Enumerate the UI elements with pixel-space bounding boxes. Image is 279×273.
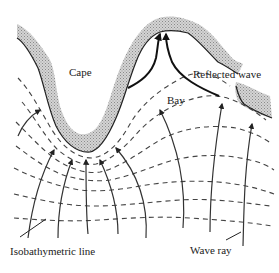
isobath-3 <box>16 122 272 173</box>
wave-ray-1 <box>18 110 40 136</box>
wave-ray-5 <box>100 160 118 234</box>
isobath-4 <box>16 146 274 181</box>
wave-ray-label: Wave ray <box>190 245 232 256</box>
wave-ray-3 <box>58 160 72 238</box>
wave-refraction-diagram: Cape Bay Reflected wave Isobathymetric l… <box>0 0 279 273</box>
bay-label: Bay <box>167 95 185 106</box>
wave-ray-6 <box>116 148 146 238</box>
coastline <box>17 17 272 153</box>
isobathymetric-line-label: Isobathymetric line <box>10 246 95 257</box>
wave-rays <box>18 104 252 246</box>
diagram-canvas <box>0 0 279 273</box>
wave-ray-4 <box>86 160 88 234</box>
wave-ray-9 <box>243 124 252 246</box>
isobath-pointer <box>20 219 46 237</box>
isobath-5 <box>14 168 274 194</box>
land-band-left <box>17 17 243 153</box>
wave-ray-7 <box>160 110 184 228</box>
cape-label: Cape <box>69 67 92 78</box>
wave-ray-pointer <box>226 232 241 240</box>
wave-ray-8 <box>210 104 222 232</box>
reflected-wave-label: Reflected wave <box>193 69 261 80</box>
isobath-7 <box>14 217 272 226</box>
